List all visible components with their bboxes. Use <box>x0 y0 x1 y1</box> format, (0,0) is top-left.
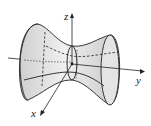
z-axis-label: z <box>64 11 68 22</box>
y-axis-label: y <box>136 75 141 86</box>
x-axis-arrow-icon <box>40 110 45 116</box>
hyperboloid-diagram <box>0 0 151 126</box>
z-axis-arrow-icon <box>70 13 74 18</box>
right-end-ellipse <box>101 35 119 105</box>
x-axis-label: x <box>31 108 36 119</box>
